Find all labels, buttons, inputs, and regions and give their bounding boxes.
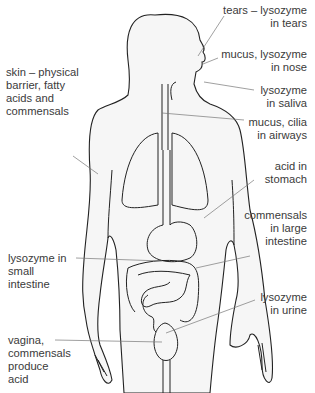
label-line: commensals (8, 347, 71, 360)
label-line: acids and (6, 92, 79, 105)
label-line: tears – lysozyme (223, 4, 307, 17)
label-stomach: acid in stomach (265, 160, 307, 186)
label-vagina: vagina, commensals produce acid (8, 334, 71, 386)
label-tears: tears – lysozyme in tears (223, 4, 307, 30)
label-line: intestine (244, 235, 307, 248)
label-airways: mucus, cilia in airways (249, 116, 307, 142)
label-line: in nose (221, 61, 307, 74)
label-line: commensals (6, 105, 79, 118)
label-line: skin – physical (6, 66, 79, 79)
label-nose: mucus, lysozyme in nose (221, 48, 307, 74)
label-line: intestine (8, 278, 66, 291)
label-saliva: lysozyme in saliva (260, 84, 307, 110)
label-skin: skin – physical barrier, fatty acids and… (6, 66, 79, 118)
label-line: lysozyme (260, 291, 307, 304)
label-line: acid in (265, 160, 307, 173)
label-line: in airways (249, 129, 307, 142)
label-line: acid (8, 373, 71, 386)
label-line: vagina, (8, 334, 71, 347)
label-large-intestine: commensals in large intestine (244, 209, 307, 248)
label-small-intestine: lysozyme in small intestine (8, 252, 66, 291)
label-line: small (8, 265, 66, 278)
label-line: in large (244, 222, 307, 235)
label-line: stomach (265, 173, 307, 186)
label-line: in urine (260, 304, 307, 317)
label-line: mucus, cilia (249, 116, 307, 129)
label-line: barrier, fatty (6, 79, 79, 92)
label-line: in saliva (260, 97, 307, 110)
label-line: lysozyme in (8, 252, 66, 265)
label-line: lysozyme (260, 84, 307, 97)
label-line: commensals (244, 209, 307, 222)
label-line: in tears (223, 17, 307, 30)
label-line: mucus, lysozyme (221, 48, 307, 61)
label-urine: lysozyme in urine (260, 291, 307, 317)
label-line: produce (8, 360, 71, 373)
